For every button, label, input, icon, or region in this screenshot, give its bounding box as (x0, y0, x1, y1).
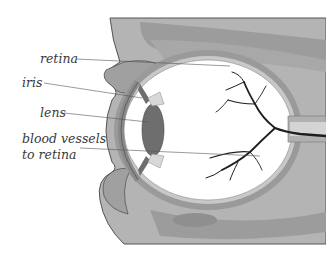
lower-tissue-blob (173, 213, 217, 227)
label-blood-vessels-line1: blood vessels (22, 132, 106, 146)
eye-diagram: retina iris lens blood vessels to retina (0, 0, 326, 258)
label-iris: iris (22, 76, 42, 90)
label-retina: retina (40, 52, 78, 66)
label-blood-vessels-line2: to retina (22, 148, 76, 162)
eye-cross-section-illustration (0, 0, 326, 258)
label-lens: lens (40, 106, 66, 120)
lens (142, 104, 164, 156)
